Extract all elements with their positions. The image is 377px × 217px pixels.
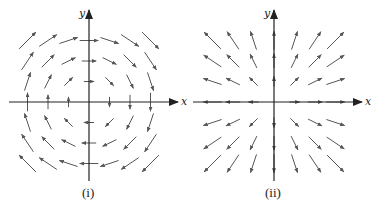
- vector-arrow: [227, 55, 240, 68]
- vector-arrow: [251, 31, 257, 49]
- vector-arrow: [291, 54, 298, 68]
- vector-arrow: [227, 137, 240, 150]
- vector-arrow: [251, 154, 257, 172]
- vector-arrow: [226, 78, 240, 85]
- vector-arrow: [145, 134, 157, 152]
- vector-arrow: [121, 158, 139, 170]
- vector-arrow: [19, 155, 36, 172]
- vector-arrow: [105, 77, 113, 85]
- vector-arrow: [203, 79, 221, 85]
- vector-arrow: [290, 118, 298, 126]
- vector-arrow: [62, 140, 76, 147]
- vector-arrow: [45, 75, 52, 89]
- vector-arrow: [148, 113, 154, 131]
- vector-arrow: [309, 137, 322, 150]
- vector-arrow: [42, 137, 55, 150]
- panel-caption-i: (i): [82, 185, 94, 200]
- x-axis-label-ii: x: [365, 95, 372, 108]
- vector-arrow: [327, 155, 344, 172]
- vector-arrow: [59, 161, 77, 167]
- vector-arrow: [59, 38, 77, 44]
- vector-arrow: [145, 52, 157, 70]
- vector-arrow: [22, 52, 34, 70]
- vector-arrow: [142, 155, 159, 172]
- vector-arrow: [121, 35, 139, 47]
- vector-arrow: [327, 137, 345, 149]
- vector-arrow: [45, 116, 52, 130]
- vector-arrow: [39, 35, 57, 47]
- x-axis-label-i: x: [181, 95, 188, 108]
- vector-arrow: [25, 72, 31, 90]
- vector-arrow: [326, 79, 344, 85]
- vector-arrow: [204, 155, 221, 172]
- vector-arrow: [64, 77, 72, 85]
- panel-caption-ii: (ii): [265, 185, 281, 200]
- panel-i: x y (i): [9, 7, 188, 200]
- vector-arrow: [290, 77, 298, 85]
- vector-arrow: [308, 78, 322, 85]
- vector-arrow: [22, 134, 34, 152]
- vector-arrow: [292, 154, 298, 172]
- vector-field-figure: x y (i) x y (ii): [0, 0, 377, 217]
- vector-arrow: [227, 155, 239, 173]
- y-axis-label-ii: y: [263, 7, 271, 20]
- vector-arrow: [39, 158, 57, 170]
- vector-arrow: [142, 32, 159, 49]
- vector-arrow: [309, 55, 322, 68]
- vector-arrow: [292, 31, 298, 49]
- vector-arrow: [204, 55, 222, 67]
- vector-arrow: [309, 155, 321, 173]
- vector-arrow: [127, 116, 134, 130]
- vector-arrow: [127, 75, 134, 89]
- vector-arrow: [148, 72, 154, 90]
- vector-arrow: [124, 137, 137, 150]
- vector-arrow: [105, 118, 113, 126]
- vector-arrow: [309, 32, 321, 50]
- vector-arrow: [124, 55, 137, 68]
- vector-arrow: [203, 120, 221, 126]
- vector-arrow: [64, 118, 72, 126]
- vector-arrow: [227, 32, 239, 50]
- vector-arrow: [250, 136, 257, 150]
- vector-arrow: [291, 136, 298, 150]
- vector-arrow: [42, 55, 55, 68]
- vector-arrow: [308, 119, 322, 126]
- vector-arrow: [327, 32, 344, 49]
- vector-arrow: [327, 55, 345, 67]
- vector-arrow: [250, 54, 257, 68]
- vector-arrow: [19, 32, 36, 49]
- vector-arrow: [100, 38, 118, 44]
- vector-arrow: [100, 161, 118, 167]
- vector-arrow: [326, 120, 344, 126]
- vector-arrow: [25, 113, 31, 131]
- vector-arrow: [103, 58, 117, 65]
- vector-arrow: [62, 58, 76, 65]
- vector-arrow: [204, 137, 222, 149]
- panel-ii: x y (ii): [193, 7, 372, 200]
- vector-arrow: [103, 140, 117, 147]
- vector-arrow: [249, 118, 257, 126]
- vector-arrow: [249, 77, 257, 85]
- y-axis-label-i: y: [78, 7, 86, 20]
- vector-arrow: [204, 32, 221, 49]
- vector-arrow: [226, 119, 240, 126]
